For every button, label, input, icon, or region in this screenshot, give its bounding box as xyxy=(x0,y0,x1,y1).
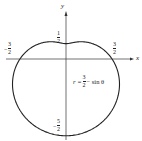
equation-label: r = 32 − sin θ xyxy=(73,74,104,88)
tick-right: 32 xyxy=(113,41,116,55)
y-axis-label: y xyxy=(61,3,64,10)
polar-plot xyxy=(0,0,142,141)
y-axis-arrow-icon xyxy=(65,11,68,16)
tick-bottom: − 52 xyxy=(57,118,60,132)
tick-left: − 32 xyxy=(8,41,11,55)
tick-top: 12 xyxy=(57,30,60,44)
x-axis-label: x xyxy=(136,55,139,62)
x-axis-arrow-icon xyxy=(130,58,134,61)
